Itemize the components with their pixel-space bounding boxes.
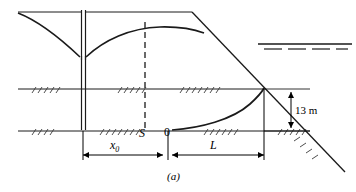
diagram-canvas (0, 0, 356, 192)
seepage-curve (172, 88, 264, 130)
label-x0-subscript: 0 (115, 145, 119, 154)
label-distance-x0: x0 (110, 138, 119, 154)
label-head-dimension: 13 m (295, 104, 317, 116)
drawdown-curve-left (18, 13, 80, 57)
ground-hatch-marks (32, 87, 318, 159)
label-length-l: L (210, 138, 217, 153)
figure-caption: (a) (167, 170, 180, 182)
label-seepage-point: S (139, 126, 145, 141)
label-origin: 0 (164, 125, 170, 140)
figure-container: S 0 x0 L 13 m (a) (0, 0, 356, 192)
